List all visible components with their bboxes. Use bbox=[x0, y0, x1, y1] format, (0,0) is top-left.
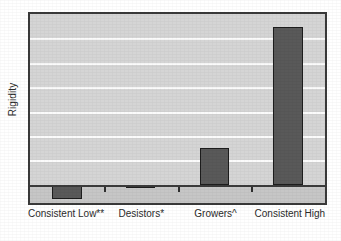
y-axis-label: Rigidity bbox=[8, 82, 19, 116]
bar-chart-figure: Rigidity Consistent Low**Desistors*Growe… bbox=[0, 0, 341, 241]
zero-baseline bbox=[30, 185, 325, 187]
plot-area bbox=[30, 14, 325, 203]
x-axis-tick-labels: Consistent Low**Desistors*Growers^Consis… bbox=[28, 207, 327, 227]
x-axis-tick-label: Consistent High bbox=[253, 207, 327, 227]
x-axis-tick-label: Growers^ bbox=[178, 207, 252, 227]
plot-frame bbox=[28, 12, 327, 205]
bar bbox=[52, 185, 82, 199]
x-axis-tick-label: Desistors* bbox=[104, 207, 178, 227]
bar bbox=[273, 27, 303, 185]
bar bbox=[200, 148, 230, 184]
y-axis-label-container: Rigidity bbox=[0, 12, 26, 186]
x-axis-tick-label: Consistent Low** bbox=[28, 207, 104, 227]
